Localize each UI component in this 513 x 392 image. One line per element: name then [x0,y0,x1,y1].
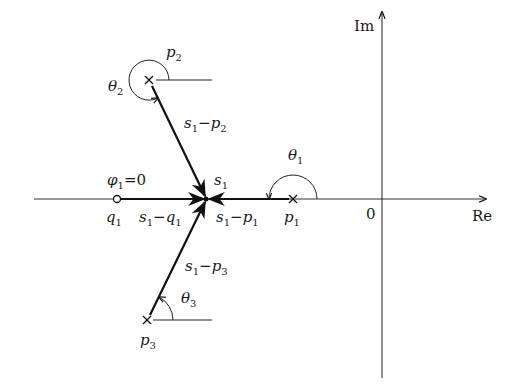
pole-p3-marker [143,316,151,324]
label-s1-minus-q1: s1−q1 [139,208,182,228]
label-p2: p2 [166,43,182,63]
label-theta1: θ1 [288,146,303,166]
label-p3: p3 [140,331,156,351]
label-s1: s1 [214,171,228,191]
label-theta3: θ3 [181,289,196,309]
vector-s1-minus-p2 [152,86,205,196]
imag-axis-label: Im [354,17,374,35]
label-phi1: φ1=0 [107,171,146,191]
label-theta2: θ2 [108,77,123,97]
test-point-s1 [204,197,209,202]
label-p1: p1 [284,208,300,228]
theta3-arc [159,297,173,320]
pole-p2-marker [145,76,153,84]
label-s1-minus-p1: s1−p1 [216,208,259,228]
real-axis-label: Re [472,207,492,225]
theta1-arc [269,175,317,199]
root-locus-diagram: Im Re 0 s1 q1 p1 p2 p3 s1−q1 s1−p1 s1−p2… [0,0,513,392]
label-s1-minus-p2: s1−p2 [184,114,227,134]
label-q1: q1 [106,208,122,228]
origin-label: 0 [366,205,376,223]
label-s1-minus-p3: s1−p3 [185,257,228,277]
zero-q1-marker [114,196,121,203]
